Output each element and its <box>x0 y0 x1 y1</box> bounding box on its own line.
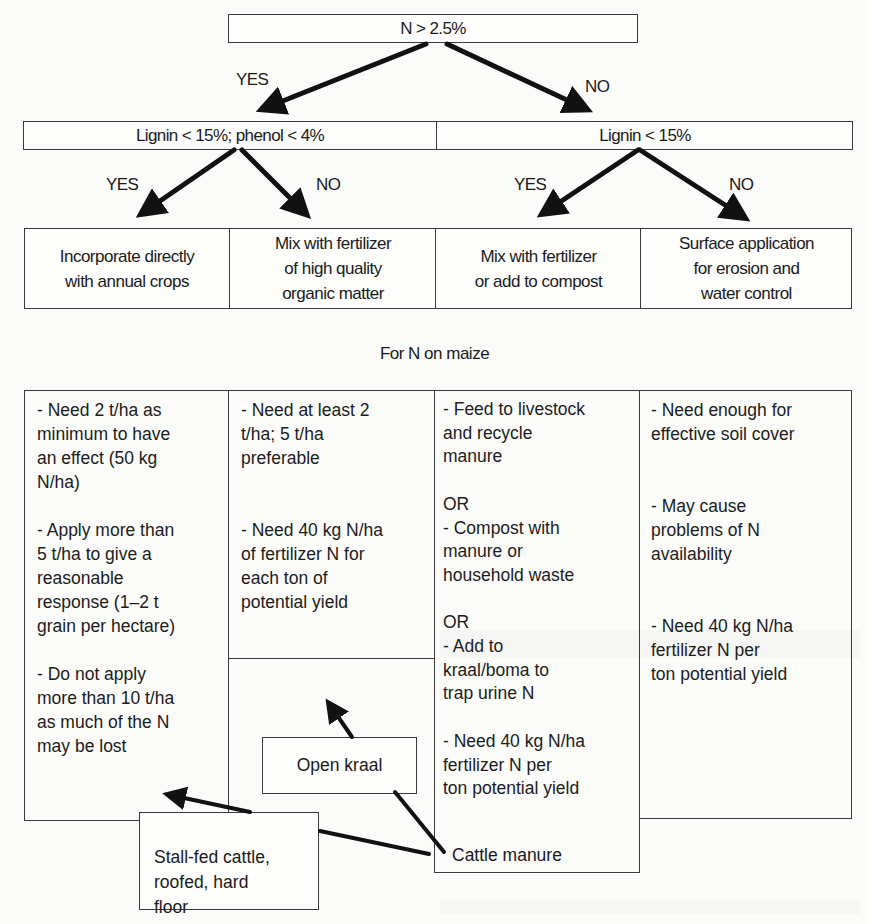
action-incorporate: Incorporate directly with annual crops <box>25 229 229 308</box>
divider <box>436 122 437 149</box>
arrow-stall-to-col1 <box>170 795 250 812</box>
stall-fed-label: Stall-fed cattle, roofed, hard floor <box>154 847 270 917</box>
level2-left-node: Lignin < 15%; phenol < 4% <box>24 122 436 149</box>
details-mix-compost: - Feed to livestock and recycle manure O… <box>435 392 639 801</box>
actions-row: Incorporate directly with annual crops M… <box>24 228 852 309</box>
background-bleed <box>440 900 860 914</box>
col2-divider <box>228 658 434 659</box>
action-mix-high-quality: Mix with fertilizer of high quality orga… <box>231 229 435 308</box>
arrow-manure-to-stall <box>320 831 429 854</box>
col4-bottom-border <box>639 818 852 819</box>
level2-right-label: Lignin < 15% <box>599 126 691 146</box>
details-mix-high-quality: - Need at least 2 t/ha; 5 t/ha preferabl… <box>230 392 432 614</box>
branch-label-no: NO <box>585 77 609 97</box>
table-top-border <box>24 390 852 391</box>
col-divider <box>639 390 640 873</box>
open-kraal-node: Open kraal <box>262 737 417 794</box>
root-node: N > 2.5% <box>228 14 638 43</box>
level2-right-node: Lignin < 15% <box>438 122 852 149</box>
section-title: For N on maize <box>0 344 869 364</box>
background-bleed <box>640 60 644 78</box>
branch-label-yes: YES <box>236 70 268 90</box>
branch-label-yes: YES <box>514 175 546 195</box>
divider <box>640 229 641 308</box>
arrow-right-no <box>640 150 742 216</box>
cattle-manure-label: Cattle manure <box>452 845 562 866</box>
arrow-left-yes <box>144 150 234 212</box>
arrow-left-no <box>242 150 304 212</box>
details-surface-application: - Need enough for effective soil cover -… <box>641 392 849 686</box>
table-right-border <box>851 390 852 819</box>
arrow-kraal-to-col2 <box>330 705 352 737</box>
branch-label-no: NO <box>316 175 340 195</box>
open-kraal-label: Open kraal <box>297 755 383 776</box>
details-incorporate: - Need 2 t/ha as minimum to have an effe… <box>26 392 226 758</box>
level2-row: Lignin < 15%; phenol < 4% Lignin < 15% <box>23 121 853 150</box>
arrow-manure-to-kraal <box>395 792 444 852</box>
level2-left-label: Lignin < 15%; phenol < 4% <box>136 126 324 146</box>
col-divider <box>228 390 229 821</box>
divider <box>229 229 230 308</box>
arrow-right-yes <box>545 150 638 212</box>
table-left-border <box>24 390 25 821</box>
stall-fed-node: Stall-fed cattle, roofed, hard floor <box>139 812 319 910</box>
action-surface-application: Surface application for erosion and wate… <box>642 229 851 308</box>
arrow-root-yes <box>265 44 426 108</box>
divider <box>435 229 436 308</box>
col3-bottom-border <box>434 872 640 873</box>
root-label: N > 2.5% <box>400 19 466 39</box>
branch-label-no: NO <box>729 175 753 195</box>
action-mix-compost: Mix with fertilizer or add to compost <box>437 229 640 308</box>
arrow-root-no <box>447 44 584 108</box>
branch-label-yes: YES <box>106 175 138 195</box>
